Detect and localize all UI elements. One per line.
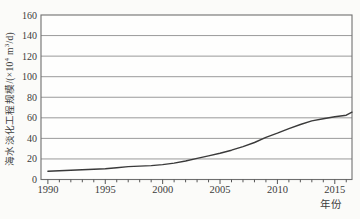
y-axis-label-text: 海水淡化工程规模/(×10 <box>5 61 15 166</box>
x-tick-label: 2005 <box>210 184 231 195</box>
x-tick-label: 2015 <box>324 184 345 195</box>
y-axis-label-unit: m <box>5 47 15 57</box>
y-axis-label: 海水淡化工程规模/(×104 m3/d) <box>2 32 16 166</box>
y-tick-label: 80 <box>27 92 37 103</box>
x-tick-label: 2010 <box>267 184 288 195</box>
x-axis-label: 年份 <box>320 196 342 211</box>
y-tick-label: 0 <box>32 174 37 185</box>
y-tick-label: 40 <box>27 133 37 144</box>
x-tick-label: 1990 <box>37 184 58 195</box>
desalination-scale-figure: 0204060801001201401601990199520002005201… <box>0 0 360 219</box>
chart-canvas: 0204060801001201401601990199520002005201… <box>0 0 360 219</box>
y-tick-label: 100 <box>22 71 37 82</box>
y-tick-label: 160 <box>22 10 37 21</box>
y-tick-label: 60 <box>27 112 37 123</box>
y-tick-label: 120 <box>22 51 37 62</box>
y-axis-label-unit-exponent: 3 <box>3 43 11 47</box>
x-tick-label: 2000 <box>152 184 173 195</box>
y-axis-label-exponent: 4 <box>3 58 11 62</box>
x-tick-label: 1995 <box>95 184 116 195</box>
y-tick-label: 20 <box>27 153 37 164</box>
y-axis-label-tail: /d) <box>5 32 15 43</box>
y-tick-label: 140 <box>22 30 37 41</box>
